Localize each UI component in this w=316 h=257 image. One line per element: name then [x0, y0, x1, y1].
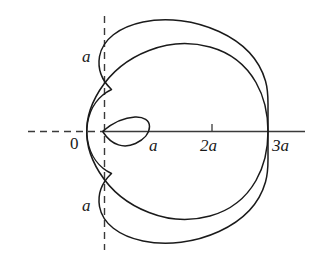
axis-label-a-top: a	[82, 48, 91, 65]
axis-label-3a: 3a	[272, 137, 289, 154]
axis-label-a-inner-loop: a	[149, 137, 158, 154]
limacon-figure: a 0 a 2a 3a a	[0, 0, 316, 257]
axis-label-2a: 2a	[200, 137, 217, 154]
limacon-outer-curve	[87, 20, 268, 220]
axis-label-origin: 0	[70, 135, 79, 152]
axis-label-a-bottom: a	[82, 197, 91, 214]
plot-canvas	[0, 0, 316, 257]
